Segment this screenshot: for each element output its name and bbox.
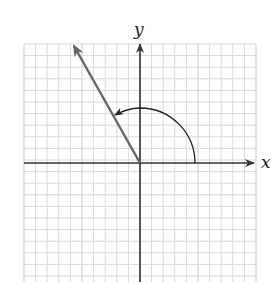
terminal-side-ray	[74, 46, 140, 163]
coordinate-diagram: y x	[0, 0, 279, 284]
y-axis-label: y	[133, 19, 144, 39]
angle-arc	[115, 108, 195, 163]
x-axis-label: x	[261, 152, 271, 172]
